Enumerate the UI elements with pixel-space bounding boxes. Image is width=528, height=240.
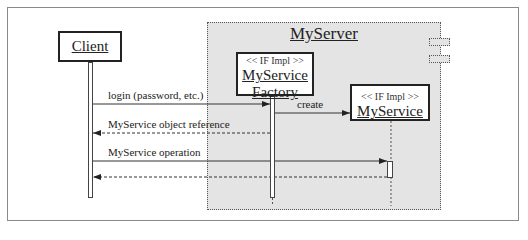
create-label: create bbox=[297, 98, 323, 110]
service-activation bbox=[387, 161, 393, 178]
login-label: login (password, etc.) bbox=[108, 89, 203, 101]
service-name: MyService bbox=[352, 103, 428, 120]
service-stereotype: << IF Impl >> bbox=[352, 91, 428, 103]
factory-object: << IF Impl >> MyService Factory bbox=[236, 52, 314, 96]
client-name: Client bbox=[60, 38, 120, 55]
client-activation bbox=[88, 62, 93, 198]
factory-name-line1: MyService bbox=[238, 67, 312, 84]
client-object: Client bbox=[58, 31, 122, 62]
operation-label: MyService operation bbox=[108, 146, 201, 158]
service-object: << IF Impl >> MyService bbox=[350, 84, 430, 121]
factory-activation bbox=[270, 96, 275, 198]
reference-label: MyService object reference bbox=[108, 118, 230, 130]
factory-stereotype: << IF Impl >> bbox=[238, 55, 312, 67]
